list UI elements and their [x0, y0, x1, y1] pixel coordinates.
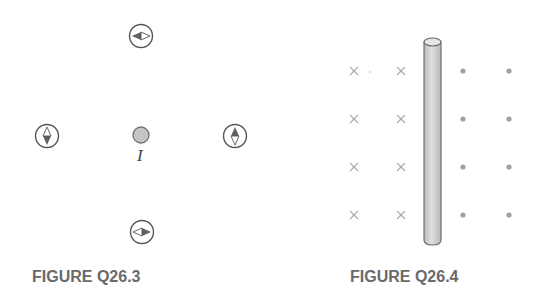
compass-right-icon: [224, 125, 247, 148]
dot-icon: [460, 116, 465, 121]
cross-icon: [397, 163, 405, 171]
figure-q26-3: I FIGURE Q26.3: [0, 0, 270, 301]
field-out-of-page-markers: [460, 68, 511, 217]
cross-icon: [350, 211, 358, 219]
compass-top-icon: [130, 25, 153, 48]
figure-q26-4: FIGURE Q26.4: [270, 0, 541, 301]
cross-icon: [350, 163, 358, 171]
cross-icon: [350, 67, 358, 75]
figure-caption: FIGURE Q26.4: [350, 268, 458, 286]
compass-bottom-icon: [131, 221, 154, 244]
dot-icon: [460, 212, 465, 217]
cross-icon: [397, 67, 405, 75]
wire-field-diagram: [270, 0, 541, 301]
dot-icon: [506, 164, 511, 169]
vertical-wire-icon: [424, 38, 441, 245]
dot-icon: [460, 68, 465, 73]
stray-mark: [369, 71, 371, 73]
current-label: I: [137, 146, 143, 166]
wire-cross-section-icon: [133, 127, 149, 143]
cross-icon: [397, 115, 405, 123]
dot-icon: [506, 212, 511, 217]
dot-icon: [506, 116, 511, 121]
field-into-page-markers: [350, 67, 405, 219]
dot-icon: [506, 68, 511, 73]
cross-icon: [397, 211, 405, 219]
compass-left-icon: [36, 125, 59, 148]
figure-caption: FIGURE Q26.3: [32, 268, 140, 286]
dot-icon: [460, 164, 465, 169]
compass-diagram: [0, 0, 270, 301]
cross-icon: [350, 115, 358, 123]
